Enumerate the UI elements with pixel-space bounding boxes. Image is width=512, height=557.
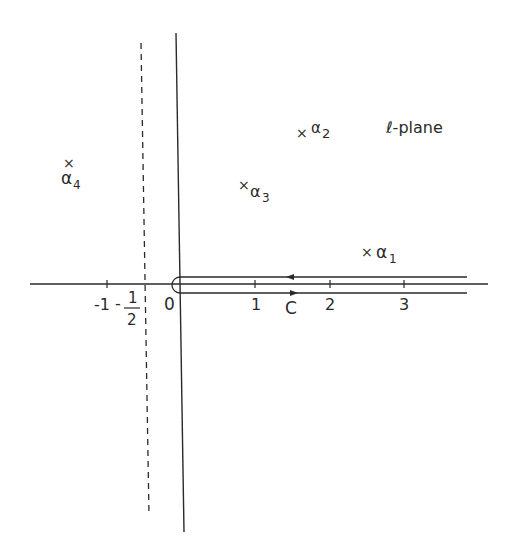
tick-label-2: 2	[325, 295, 335, 314]
pole-label: α	[376, 242, 387, 262]
pole-label: α	[311, 119, 321, 137]
pole-subscript: 1	[389, 252, 397, 266]
pole-alpha1: × α 1	[361, 242, 397, 266]
contour-c	[172, 274, 467, 296]
fraction-denominator: 2	[127, 311, 137, 329]
l-plane-diagram: -1 0 1 2 3 - 1 2 C × α 1 × α 2 × α 3 × α…	[0, 0, 512, 557]
contour-label-c: C	[285, 298, 297, 318]
minus-sign: -	[115, 294, 121, 313]
pole-marker-icon: ×	[361, 244, 373, 260]
plane-label: ℓ-plane	[385, 118, 443, 137]
imaginary-axis	[176, 33, 184, 532]
fraction-numerator: 1	[128, 289, 138, 307]
pole-marker-icon: ×	[296, 125, 308, 141]
tick-label-1: 1	[251, 295, 261, 314]
arrow-right-icon	[290, 290, 298, 296]
tick-label-3: 3	[399, 295, 409, 314]
pole-alpha3: × α 3	[238, 177, 270, 205]
pole-label: α	[250, 182, 261, 201]
pole-alpha4: × α 4	[61, 155, 81, 192]
contour-path	[172, 277, 467, 293]
pole-subscript: 4	[73, 178, 81, 192]
pole-label: α	[61, 168, 72, 188]
tick-label-minus-1: -1	[94, 295, 110, 314]
pole-marker-icon: ×	[238, 177, 250, 193]
pole-subscript: 3	[262, 191, 270, 205]
pole-subscript: 2	[322, 126, 330, 141]
arrow-left-icon	[286, 274, 294, 280]
pole-alpha2: × α 2	[296, 119, 330, 141]
label-minus-half: - 1 2	[115, 289, 140, 329]
tick-label-0: 0	[164, 294, 175, 314]
dashed-line-re-minus-half	[141, 43, 149, 515]
